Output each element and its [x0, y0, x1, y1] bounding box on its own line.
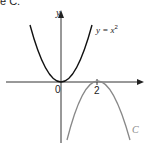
x-axis-arrow-icon [137, 79, 144, 85]
origin-label: 0 [55, 85, 61, 95]
curve-label-parabola: y = x2 [96, 24, 118, 35]
graph-canvas [0, 0, 144, 143]
y-axis-label: y [56, 8, 60, 18]
curve-label-sup: 2 [115, 24, 118, 30]
curve-label-text: y = x [96, 25, 115, 35]
x-tick-label-2: 2 [94, 86, 100, 96]
curve-label-c: C [132, 125, 139, 135]
